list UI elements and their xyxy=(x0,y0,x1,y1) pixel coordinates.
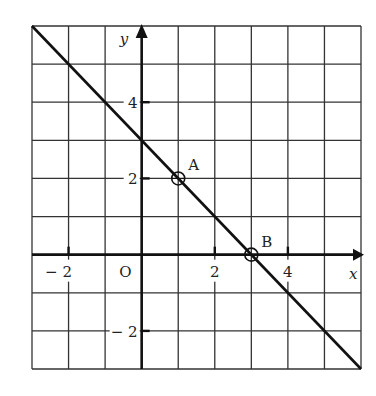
y-tick-label: 2 xyxy=(128,170,138,188)
x-tick-label: − 2 xyxy=(45,263,72,281)
y-tick-label: 4 xyxy=(128,94,138,112)
y-tick-label: − 2 xyxy=(111,323,138,341)
x-axis-label: x xyxy=(349,265,358,283)
series-line xyxy=(32,26,361,369)
coordinate-plane: − 22442− 2OxyAB xyxy=(0,0,376,396)
y-axis-label: y xyxy=(119,30,129,48)
x-tick-label: 2 xyxy=(210,263,220,281)
point-label-a: A xyxy=(187,156,199,174)
point-label-b: B xyxy=(261,233,272,251)
x-tick-label: 4 xyxy=(283,263,293,281)
origin-label: O xyxy=(119,263,131,281)
x-axis-arrow-icon xyxy=(353,249,364,261)
